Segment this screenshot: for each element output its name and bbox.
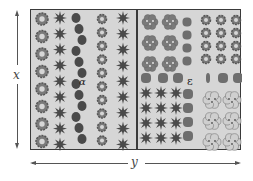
x-dimension-label: x	[13, 68, 20, 82]
garden-bed: α ε	[30, 9, 241, 150]
y-dimension-label: y	[131, 155, 138, 169]
y-axis-line-left	[32, 163, 128, 164]
plot-marker-left: α	[79, 76, 86, 87]
plantings	[31, 10, 242, 151]
y-axis-line-right	[145, 163, 239, 164]
plot-marker-right: ε	[187, 75, 193, 88]
